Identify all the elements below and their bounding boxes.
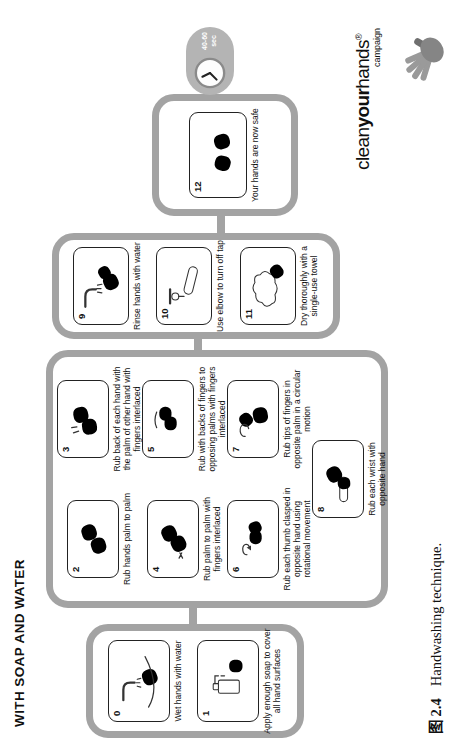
step-7-number: 7 — [230, 447, 241, 452]
hand-icon — [392, 26, 446, 98]
step-4-cell: 4 Rub palm to palm with fingers interlac… — [147, 486, 222, 592]
step-6-number: 6 — [230, 567, 241, 572]
step-6-cell: 6 Rub each thumb clasped in opposite han… — [227, 486, 312, 592]
step-0-number: 0 — [111, 711, 122, 716]
step-3-frame: 3 — [57, 380, 109, 458]
step-4-caption: Rub palm to palm with fingers interlaced — [202, 486, 222, 592]
step-8-number: 8 — [315, 507, 326, 512]
step-2-cell: 2 Rub hands palm to palm — [67, 486, 132, 592]
figure-caption: 图 2.4Handwashing technique. — [424, 334, 445, 734]
step-9-cell: 9 Rinse hands with water — [73, 233, 142, 339]
step-12-cell: 12 Your hands are now safe — [189, 102, 260, 208]
group-prepare: 0 Wet hands with water 1 — [86, 624, 304, 738]
cleanyourhands-logo: cleanyourhands® campaign — [352, 10, 448, 170]
registered-mark: ® — [354, 34, 364, 40]
rotated-poster: WITH SOAP AND WATER 0 Wet hands with wat… — [0, 0, 449, 742]
step-2-caption: Rub hands palm to palm — [122, 486, 132, 592]
step-5-cell: 5 Rub with backs of fingers to opposing … — [142, 366, 227, 472]
clock-icon — [193, 56, 227, 90]
step-9-caption: Rinse hands with water — [132, 233, 142, 339]
step-3-caption: Rub back of each hand with the palm of o… — [112, 366, 142, 472]
step-2-number: 2 — [70, 567, 81, 572]
step-2-illustration palms-icon — [73, 507, 113, 571]
step-3-number: 3 — [60, 447, 71, 452]
group-rinse-dry: 9 Rinse hands with water 10 — [52, 233, 340, 339]
step-8-cell: 8 Rub each wrist with opposite hand — [312, 426, 387, 532]
poster-title: WITH SOAP AND WATER — [12, 559, 27, 727]
book-figure-page: WITH SOAP AND WATER 0 Wet hands with wat… — [0, 0, 449, 742]
logo-word-your: your — [352, 89, 373, 128]
step-1-number: 1 — [200, 711, 211, 716]
step-9-frame: 9 — [73, 247, 129, 325]
step-10-caption: Use elbow to turn off tap — [215, 233, 225, 339]
step-11-frame: 11 — [240, 247, 296, 325]
step-5-frame: 5 — [142, 380, 194, 458]
timer-duration-label: 40-60 sec — [201, 28, 219, 54]
step-8-frame: 8 — [312, 440, 364, 518]
figure-caption-label: 图 2.4 — [428, 698, 444, 734]
step-12-caption: Your hands are now safe — [250, 102, 260, 208]
step-10-illustration elbow-tap-icon — [164, 254, 204, 318]
step-5-illustration interlocked-fists-icon — [148, 387, 188, 451]
group-safe: 12 Your hands are now safe — [152, 94, 298, 216]
step-3-cell: 3 Rub back of each hand with the palm of… — [57, 366, 142, 472]
step-4-frame: 4 — [147, 500, 199, 578]
step-0-cell: 0 Wet hands with water — [108, 628, 183, 734]
step-12-illustration safe-hands-icon — [198, 123, 238, 187]
step-9-illustration rinse-icon — [81, 254, 121, 318]
step-6-illustration thumb-rub-icon — [233, 507, 273, 571]
step-0-caption: Wet hands with water — [173, 628, 183, 734]
step-10-number: 10 — [159, 308, 170, 319]
step-3-illustration back-of-hand-icon — [63, 387, 103, 451]
step-7-caption: Rub tips of fingers in opposite palm in … — [282, 366, 312, 472]
step-5-number: 5 — [145, 447, 156, 452]
step-11-caption: Dry thoroughly with a single-use towel — [299, 233, 319, 339]
step-7-frame: 7 — [227, 380, 279, 458]
step-1-illustration soap-dispenser-icon — [208, 649, 248, 713]
step-4-illustration interlaced-fingers-icon — [153, 507, 193, 571]
step-8-caption: Rub each wrist with opposite hand — [367, 426, 387, 532]
step-10-cell: 10 Use elbow to turn off tap — [156, 233, 225, 339]
step-9-number: 9 — [76, 314, 87, 319]
step-11-cell: 11 Dry thoroughly with a single-use towe… — [240, 233, 319, 339]
figure-caption-text: Handwashing technique. — [428, 543, 444, 686]
step-1-frame: 1 — [197, 640, 259, 722]
step-5-caption: Rub with backs of fingers to opposing pa… — [197, 366, 227, 472]
step-4-number: 4 — [150, 567, 161, 572]
step-11-illustration towel-icon — [248, 254, 288, 318]
step-11-number: 11 — [243, 309, 254, 319]
step-12-frame: 12 — [189, 112, 247, 198]
step-7-cell: 7 Rub tips of fingers in opposite palm i… — [227, 366, 312, 472]
step-0-illustration wet-hands-icon — [119, 649, 159, 713]
step-8-illustration wrist-rub-icon — [318, 447, 358, 511]
group-rub: 2 Rub hands palm to palm 3 — [46, 350, 388, 608]
step-12-number: 12 — [192, 181, 203, 192]
step-0-frame: 0 — [108, 640, 170, 722]
step-10-frame: 10 — [156, 247, 212, 325]
logo-wordmark: cleanyourhands® — [352, 10, 374, 170]
logo-word-clean: clean — [352, 128, 373, 170]
step-2-frame: 2 — [67, 500, 119, 578]
logo-word-hands: hands — [352, 40, 373, 89]
step-6-caption: Rub each thumb clasped in opposite hand … — [282, 486, 312, 592]
step-6-frame: 6 — [227, 500, 279, 578]
step-1-cell: 1 Apply enough soap to cover all hand su… — [197, 628, 282, 734]
step-7-illustration fingertips-icon — [233, 387, 273, 451]
timer-capsule: 40-60 sec — [186, 27, 234, 95]
step-1-caption: Apply enough soap to cover all hand surf… — [262, 628, 282, 734]
